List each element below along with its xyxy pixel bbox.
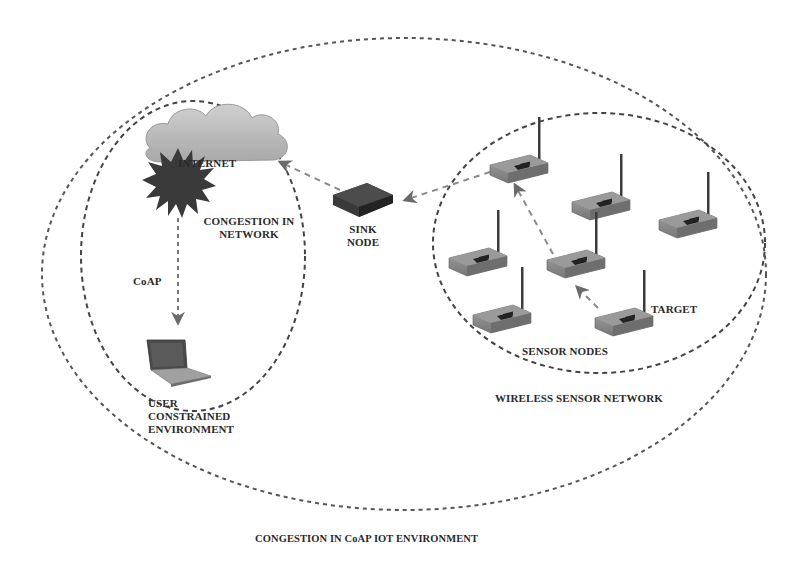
cloud-icon: [146, 104, 287, 162]
sensor-node-upper-right: [572, 154, 630, 220]
internet-label: INTERNET: [178, 157, 236, 170]
sink-node-icon: [333, 183, 393, 217]
congestion-label: CONGESTION IN NETWORK: [194, 215, 304, 241]
wsn-label: WIRELESS SENSOR NETWORK: [495, 392, 663, 405]
edge-sink-internet: [280, 162, 340, 190]
target-label: TARGET: [651, 303, 697, 316]
sink-node-label-line2: NODE: [338, 236, 388, 249]
edge-middle-top: [515, 185, 553, 254]
figure-caption: CONGESTION IN CoAP IOT ENVIRONMENT: [255, 532, 478, 545]
coap-edge-label: CoAP: [133, 275, 162, 288]
diagram-canvas: [0, 0, 798, 570]
sensor-node-middle: [547, 212, 605, 278]
sensor-node-left: [449, 210, 507, 276]
outer-environment-boundary: [42, 38, 766, 510]
sink-node-label-line1: SINK: [338, 223, 388, 236]
sensor-node-top: [490, 117, 548, 183]
laptop-icon: [147, 340, 211, 387]
sensor-node-target: [595, 270, 653, 336]
congestion-label-line1: CONGESTION IN: [194, 215, 304, 228]
sensor-node-bottom-left: [473, 267, 531, 333]
sensor-nodes-label: SENSOR NODES: [522, 345, 608, 358]
constrained-label-line3: ENVIRONMENT: [148, 423, 234, 436]
constrained-environment-label: USER CONSTRAINED ENVIRONMENT: [148, 397, 234, 436]
congestion-label-line2: NETWORK: [194, 228, 304, 241]
user-label: USER: [148, 397, 234, 410]
sensor-node-far-right: [659, 172, 717, 238]
constrained-label-line2: CONSTRAINED: [148, 410, 234, 423]
sink-node-label: SINK NODE: [338, 223, 388, 249]
edge-sensor-sink: [405, 172, 490, 200]
edge-target-middle: [577, 287, 598, 308]
